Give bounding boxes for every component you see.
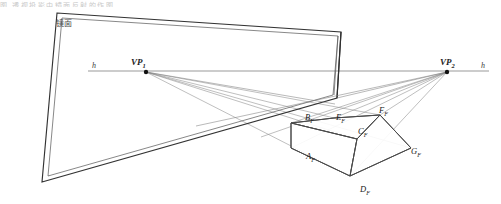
vp1-ray-1 <box>146 72 380 115</box>
reflection-guide-1 <box>196 72 447 126</box>
vp2-dot <box>445 70 449 74</box>
perspective-mirror-diagram: 图 透视投影中镜面反射的作图 <box>0 0 501 204</box>
vp2-ray-6 <box>380 72 447 115</box>
vp1-ray-5 <box>146 72 334 118</box>
vp1-dot <box>144 70 148 74</box>
vp2-ray-3 <box>334 72 447 118</box>
diagram-canvas <box>0 0 501 204</box>
box-object <box>291 115 411 176</box>
